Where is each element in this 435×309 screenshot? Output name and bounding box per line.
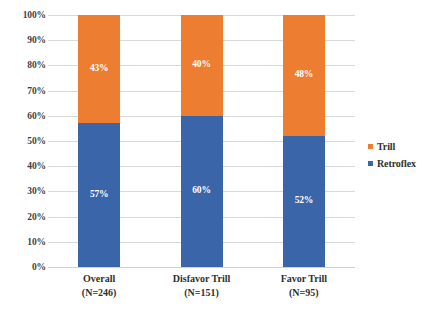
category-name: Disfavor Trill [173, 273, 231, 284]
bar-group[interactable]: 57%43% [78, 15, 120, 267]
bar-value-label: 60% [181, 185, 223, 195]
y-axis: 100%90%80%70%60%50%40%30%20%10%0% [0, 15, 46, 267]
gridline [48, 267, 355, 268]
bar-value-label: 40% [181, 59, 223, 69]
y-axis-tick-label: 80% [2, 60, 46, 70]
bar-value-label: 52% [283, 195, 325, 205]
bar-group[interactable]: 52%48% [283, 15, 325, 267]
category-name: Favor Trill [281, 273, 327, 284]
x-axis-category-label: Favor Trill(N=95) [234, 272, 374, 300]
bar-group[interactable]: 60%40% [181, 15, 223, 267]
y-axis-tick-label: 60% [2, 111, 46, 121]
y-axis-tick-label: 30% [2, 186, 46, 196]
bar-value-label: 48% [283, 69, 325, 79]
stacked-bar-chart: 100%90%80%70%60%50%40%30%20%10%0% 57%43%… [0, 0, 435, 309]
y-axis-tick-label: 100% [2, 10, 46, 20]
bar-segment-trill[interactable]: 43% [78, 15, 120, 123]
bar-segment-trill[interactable]: 40% [181, 15, 223, 116]
plot-area: 57%43%60%40%52%48% [48, 15, 355, 267]
legend-item[interactable]: Retroflex [368, 155, 434, 172]
legend-label: Trill [377, 141, 395, 152]
legend-item[interactable]: Trill [368, 138, 434, 155]
y-axis-tick-label: 50% [2, 136, 46, 146]
y-axis-tick-label: 20% [2, 212, 46, 222]
category-name: Overall [83, 273, 115, 284]
bar-segment-retroflex[interactable]: 60% [181, 116, 223, 267]
bar-segment-retroflex[interactable]: 57% [78, 123, 120, 267]
y-axis-tick-label: 90% [2, 35, 46, 45]
y-axis-tick-label: 10% [2, 237, 46, 247]
chart-legend: TrillRetroflex [368, 138, 434, 172]
legend-swatch-icon [368, 161, 373, 166]
category-sample-size: (N=95) [234, 286, 374, 300]
bar-segment-trill[interactable]: 48% [283, 15, 325, 136]
y-axis-tick-label: 0% [2, 262, 46, 272]
bar-value-label: 57% [78, 189, 120, 199]
legend-label: Retroflex [377, 158, 416, 169]
bar-segment-retroflex[interactable]: 52% [283, 136, 325, 267]
y-axis-tick-label: 40% [2, 161, 46, 171]
y-axis-tick-label: 70% [2, 86, 46, 96]
legend-swatch-icon [368, 144, 373, 149]
bar-value-label: 43% [78, 63, 120, 73]
